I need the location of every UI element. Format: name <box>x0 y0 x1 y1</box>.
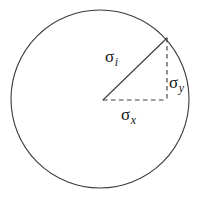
label-sigma-x-subscript: x <box>131 113 136 127</box>
figure-canvas: σi σy σx <box>0 0 202 198</box>
boundary-circle <box>11 10 189 188</box>
label-sigma-i-base: σ <box>105 47 114 66</box>
label-sigma-y-subscript: y <box>179 81 184 95</box>
label-sigma-i-subscript: i <box>115 55 118 69</box>
label-sigma-i: σi <box>105 48 118 65</box>
label-sigma-y-base: σ <box>169 73 178 92</box>
label-sigma-y: σy <box>169 74 184 91</box>
label-sigma-x-base: σ <box>121 105 130 124</box>
diagram-svg <box>0 0 202 198</box>
label-sigma-x: σx <box>121 106 136 123</box>
